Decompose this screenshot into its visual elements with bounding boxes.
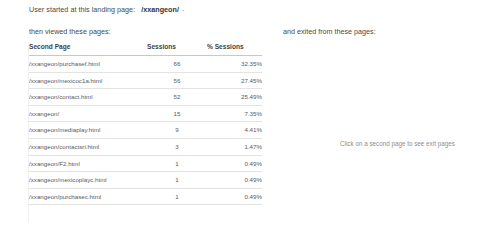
cell-sessions: 1	[147, 155, 207, 172]
exit-pages-hint: Click on a second page to see exit pages	[340, 140, 455, 147]
cell-second-page[interactable]: /xxangeon/mexicoc1a.html	[29, 72, 147, 89]
landing-page-suffix: -	[182, 5, 184, 14]
cell-percent-sessions: 1.47%	[207, 138, 262, 155]
landing-page-value[interactable]: /xxangeon/	[141, 5, 179, 14]
table-row[interactable]: /xxangeon/contact.html5225.49%	[29, 89, 262, 106]
cell-sessions: 66	[147, 56, 207, 73]
second-page-table: Second Page Sessions % Sessions /xxangeo…	[29, 42, 262, 205]
table-row[interactable]: /xxangeon/F2.html10.49%	[29, 155, 262, 172]
cell-sessions: 3	[147, 138, 207, 155]
cell-second-page[interactable]: /xxangeon/mexicoplayc.html	[29, 172, 147, 189]
cell-second-page[interactable]: /xxangeon/purchasec.html	[29, 188, 147, 205]
table-header-row: Second Page Sessions % Sessions	[29, 42, 262, 56]
table-row[interactable]: /xxangeon/purchasef.html6632.35%	[29, 56, 262, 73]
cell-second-page[interactable]: /xxangeon/purchasef.html	[29, 56, 147, 73]
column-header-percent-sessions[interactable]: % Sessions	[207, 42, 262, 56]
cell-percent-sessions: 7.35%	[207, 105, 262, 122]
table-row[interactable]: /xxangeon/contactsri.html31.47%	[29, 138, 262, 155]
second-page-table-wrapper: Second Page Sessions % Sessions /xxangeo…	[29, 42, 262, 205]
cell-sessions: 1	[147, 172, 207, 189]
table-head: Second Page Sessions % Sessions	[29, 42, 262, 56]
cell-second-page[interactable]: /xxangeon/contactsri.html	[29, 138, 147, 155]
table-row[interactable]: /xxangeon/mexicoplayc.html10.49%	[29, 172, 262, 189]
cell-sessions: 15	[147, 105, 207, 122]
cell-sessions: 1	[147, 188, 207, 205]
table-body: /xxangeon/purchasef.html6632.35%/xxangeo…	[29, 56, 262, 205]
cell-second-page[interactable]: /xxangeon/mediaplay.html	[29, 122, 147, 139]
table-row[interactable]: /xxangeon/157.35%	[29, 105, 262, 122]
column-header-sessions[interactable]: Sessions	[147, 42, 207, 56]
then-viewed-label: then viewed these pages:	[29, 27, 111, 36]
landing-page-prefix: User started at this landing page:	[29, 5, 135, 14]
cell-percent-sessions: 0.49%	[207, 188, 262, 205]
cell-second-page[interactable]: /xxangeon/	[29, 105, 147, 122]
cell-second-page[interactable]: /xxangeon/F2.html	[29, 155, 147, 172]
table-row[interactable]: /xxangeon/mediaplay.html94.41%	[29, 122, 262, 139]
cell-sessions: 52	[147, 89, 207, 106]
cell-percent-sessions: 27.45%	[207, 72, 262, 89]
cell-sessions: 56	[147, 72, 207, 89]
cell-second-page[interactable]: /xxangeon/contact.html	[29, 89, 147, 106]
cell-percent-sessions: 0.49%	[207, 155, 262, 172]
cell-percent-sessions: 25.49%	[207, 89, 262, 106]
column-header-second-page[interactable]: Second Page	[29, 42, 147, 56]
and-exited-label: and exited from these pages:	[283, 27, 376, 36]
table-row[interactable]: /xxangeon/mexicoc1a.html5627.45%	[29, 72, 262, 89]
table-row[interactable]: /xxangeon/purchasec.html10.49%	[29, 188, 262, 205]
cell-sessions: 9	[147, 122, 207, 139]
cell-percent-sessions: 0.49%	[207, 172, 262, 189]
users-flow-panel: User started at this landing page:/xxang…	[0, 0, 486, 234]
cell-percent-sessions: 4.41%	[207, 122, 262, 139]
landing-page-line: User started at this landing page:/xxang…	[29, 5, 184, 14]
cell-percent-sessions: 32.35%	[207, 56, 262, 73]
